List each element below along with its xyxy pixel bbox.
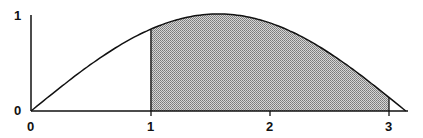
x-tick-label-1: 1	[147, 120, 154, 133]
shaded-area	[150, 14, 389, 111]
y-tick-label-0: 0	[14, 104, 21, 117]
x-tick-label-2: 2	[266, 120, 273, 133]
y-tick-label-1: 1	[14, 9, 21, 22]
x-tick-label-3: 3	[385, 120, 392, 133]
x-tick-label-0: 0	[27, 120, 34, 133]
chart-plot	[0, 0, 423, 138]
